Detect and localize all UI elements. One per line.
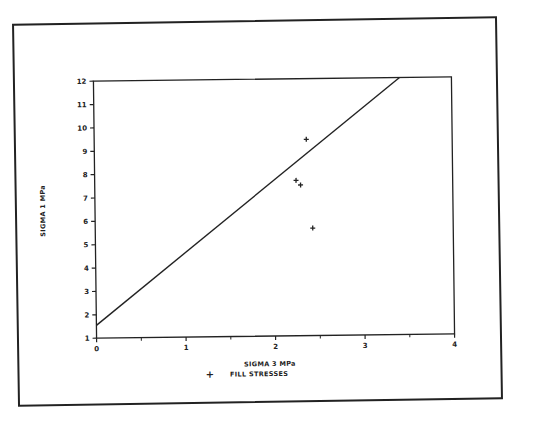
data-points [293, 137, 315, 231]
y-tick-label: 4 [84, 265, 89, 273]
y-tick-label: 2 [84, 311, 89, 319]
chart: 123456789101112 01234 SIGMA 3 MPa + FILL… [0, 0, 533, 425]
data-point-marker [310, 226, 315, 231]
y-axis-title: SIGMA 1 MPa [39, 185, 48, 237]
plot-area [93, 77, 454, 338]
x-tick-label: 4 [452, 341, 457, 349]
x-tick-label: 3 [363, 342, 368, 350]
x-tick-label: 2 [273, 343, 278, 351]
y-tick-label: 9 [82, 148, 87, 156]
legend-marker: + [206, 369, 215, 380]
y-tick-label: 1 [85, 335, 90, 343]
y-tick-label: 8 [83, 171, 88, 179]
y-tick-label: 12 [77, 78, 87, 86]
y-tick-label: 7 [83, 195, 88, 203]
envelope-line [93, 77, 402, 325]
y-tick-label: 10 [77, 125, 87, 133]
data-point-marker [294, 178, 299, 183]
data-point-marker [298, 182, 303, 187]
x-tick-label: 0 [94, 345, 99, 353]
y-tick-label: 5 [84, 241, 89, 249]
x-axis-ticks: 01234 [94, 334, 457, 353]
x-axis-title: SIGMA 3 MPa [244, 360, 296, 369]
x-tick-label: 1 [184, 344, 189, 352]
legend-label: FILL STRESSES [230, 370, 288, 379]
data-point-marker [304, 137, 309, 142]
y-tick-label: 11 [77, 101, 87, 109]
y-tick-label: 6 [83, 218, 88, 226]
y-tick-label: 3 [84, 288, 89, 296]
